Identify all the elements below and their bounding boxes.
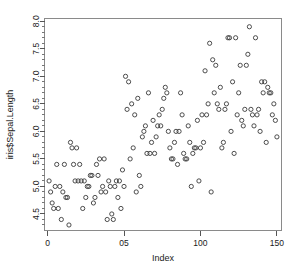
y-axis-label: iris$Sepal.Length (5, 90, 15, 160)
x-axis-tick-label: 05 (119, 238, 129, 248)
x-axis-label: Index (152, 253, 175, 263)
y-axis-tick-label: 5.5 (31, 153, 41, 165)
y-axis-tick-label: 4.5 (31, 208, 41, 220)
y-axis-tick-label: 7.5 (31, 43, 41, 55)
x-axis-tick-label: 100 (193, 238, 207, 248)
y-axis-tick-label: 8.0 (31, 15, 41, 27)
y-axis-tick-label: 6.0 (31, 125, 41, 137)
y-axis-tick-label: 5.0 (31, 180, 41, 192)
x-axis-tick-label: 150 (270, 238, 284, 248)
y-axis-tick-label: 7.0 (31, 70, 41, 82)
plot-background (0, 0, 292, 270)
scatter-plot-figure: 4.55.05.56.06.57.07.58.0050100150Indexir… (0, 0, 292, 270)
plot-canvas: 4.55.05.56.06.57.07.58.0050100150Indexir… (0, 0, 292, 270)
x-axis-tick-label: 0 (45, 238, 50, 248)
y-axis-tick-label: 6.5 (31, 98, 41, 110)
